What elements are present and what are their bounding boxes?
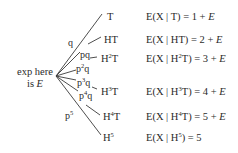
eq-base: HT (171, 34, 185, 45)
expectation-HT: E(X | HT) = 2 + E (146, 34, 222, 45)
prob-label-HT: pq (80, 49, 90, 60)
prob-text: pq (80, 49, 90, 60)
outcome-tail: T (112, 53, 118, 64)
outcome-tail: T (114, 111, 120, 122)
eq-var: E (219, 86, 225, 97)
expectation-T: E(X | T) = 1 + E (146, 11, 215, 22)
edge-HT-tail (88, 37, 101, 44)
outcome-T: T (107, 11, 113, 22)
eq-post: ) = 1 + (177, 11, 208, 22)
eq-post: ) = 3 + (188, 53, 219, 64)
prob-label-H5: p5 (65, 110, 73, 121)
edge-H4T-tail (86, 105, 100, 115)
outcome-text: H (103, 132, 111, 143)
edge-H2T-tail (90, 57, 97, 58)
prob-label-T: q (68, 37, 73, 48)
eq-var: E (208, 11, 214, 22)
expectation-H4T: E(X | H4T) = 5 + E (146, 111, 226, 122)
eq-pre: E(X | (146, 111, 171, 122)
outcome-H4T: H4T (103, 111, 120, 122)
outcome-HT: HT (104, 34, 118, 45)
eq-var: E (216, 34, 222, 45)
eq-post: ) = 5 (182, 132, 202, 143)
prob-sup: 5 (70, 109, 73, 116)
expectation-H5: E(X | H5) = 5 (146, 132, 202, 143)
eq-pre: E(X | (146, 53, 171, 64)
expectation-H2T: E(X | H2T) = 3 + E (146, 53, 226, 64)
outcome-text: H (103, 111, 111, 122)
eq-pre: E(X | (146, 132, 171, 143)
expectation-H3T: E(X | H3T) = 4 + E (146, 86, 226, 97)
outcome-text: H (101, 53, 109, 64)
eq-post: ) = 4 + (188, 86, 219, 97)
eq-post: ) = 2 + (185, 34, 216, 45)
outcome-H2T: H2T (101, 53, 118, 64)
outcome-text: T (107, 11, 113, 22)
prob-label-H3T: p3q (77, 77, 90, 88)
eq-pre: E(X | (146, 11, 171, 22)
eq-var: E (219, 111, 225, 122)
root-label: exp here is E (16, 66, 54, 90)
outcome-tail: T (112, 86, 118, 97)
eq-var: E (219, 53, 225, 64)
root-label-line2: is E (16, 78, 54, 90)
eq-pre: E(X | (146, 86, 171, 97)
prob-tail: q (84, 63, 89, 74)
root-label-prefix: is (27, 78, 37, 89)
outcome-text: HT (104, 34, 118, 45)
root-label-var: E (37, 78, 43, 89)
prob-tail: q (87, 90, 92, 101)
prob-text: q (68, 37, 73, 48)
eq-post: ) = 5 + (188, 111, 219, 122)
prob-label-H4T: p4q (79, 90, 92, 101)
edge-H3T-tail (92, 87, 97, 89)
outcome-H3T: H3T (101, 86, 118, 97)
outcome-sup: 5 (111, 131, 114, 138)
eq-pre: E(X | (146, 34, 171, 45)
prob-tail: q (85, 77, 90, 88)
outcome-text: H (101, 86, 109, 97)
root-label-line1: exp here (16, 66, 54, 78)
prob-label-H2T: p2q (76, 63, 89, 74)
outcome-H5: H5 (103, 132, 114, 143)
